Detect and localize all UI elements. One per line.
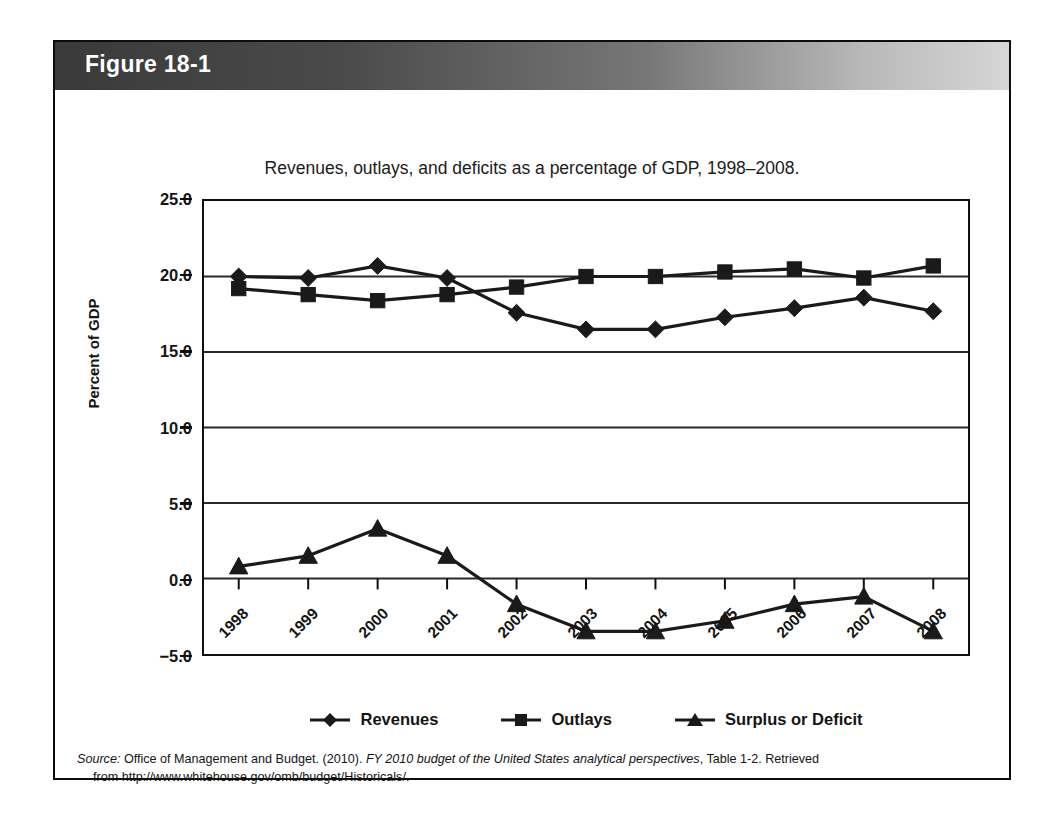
data-point-revenues [786,300,803,317]
legend-item: Revenues [309,710,438,729]
legend-label: Surplus or Deficit [725,710,863,729]
data-point-revenues [300,270,317,287]
y-axis-tick [180,579,192,582]
data-point-outlays [232,281,246,295]
plot-area [202,199,970,656]
square-marker [500,711,542,729]
chart-legend: RevenuesOutlaysSurplus or Deficit [202,710,970,729]
source-note-line-2: from http://www.whitehouse.gov/omb/budge… [77,768,989,786]
y-axis-tick [180,502,192,505]
source-text-before: Office of Management and Budget. (2010). [120,752,366,766]
chart-title: Revenues, outlays, and deficits as a per… [55,158,1009,179]
data-point-revenues [578,321,595,338]
source-text-after: , Table 1-2. Retrieved [700,752,819,766]
data-point-revenues [439,270,456,287]
data-point-outlays [857,271,871,285]
source-label: Source: [77,752,120,766]
source-note-line-1: Source: Office of Management and Budget.… [77,750,989,768]
data-point-outlays [718,265,732,279]
legend-label: Outlays [551,710,612,729]
y-axis-tick [180,274,192,277]
y-axis-tick [180,198,192,201]
diamond-marker [309,711,351,729]
plot-svg [204,201,968,654]
data-point-outlays [440,287,454,301]
data-point-revenues [647,321,664,338]
y-axis-tick [180,426,192,429]
data-point-outlays [648,269,662,283]
data-point-revenues [508,304,525,321]
data-point-revenues [855,289,872,306]
figure-number-label: Figure 18-1 [85,51,211,78]
figure-container: Figure 18-1 Revenues, outlays, and defic… [53,40,1011,780]
data-point-outlays [370,294,384,308]
source-italic-title: FY 2010 budget of the United States anal… [366,752,700,766]
data-point-revenues [716,309,733,326]
legend-label: Revenues [360,710,438,729]
y-axis-tick [180,655,192,658]
data-point-outlays [926,259,940,273]
y-axis-tick-labels: 25.020.015.010.05.00.0−5.0 [92,199,192,656]
figure-header-bar: Figure 18-1 [55,42,1009,90]
legend-item: Surplus or Deficit [674,710,863,729]
chart-region: Revenues, outlays, and deficits as a per… [55,90,1009,778]
legend-item: Outlays [500,710,612,729]
data-point-surplus-or-deficit [368,520,386,537]
triangle-marker [674,711,716,729]
y-axis-tick [180,350,192,353]
data-point-outlays [509,280,523,294]
data-point-revenues [925,303,942,320]
x-axis-tick-labels: 1998199920002001200220032004200520062007… [202,623,970,703]
data-point-outlays [787,262,801,276]
source-note: Source: Office of Management and Budget.… [77,750,989,787]
data-point-revenues [369,258,386,275]
data-point-outlays [301,287,315,301]
data-point-outlays [579,269,593,283]
